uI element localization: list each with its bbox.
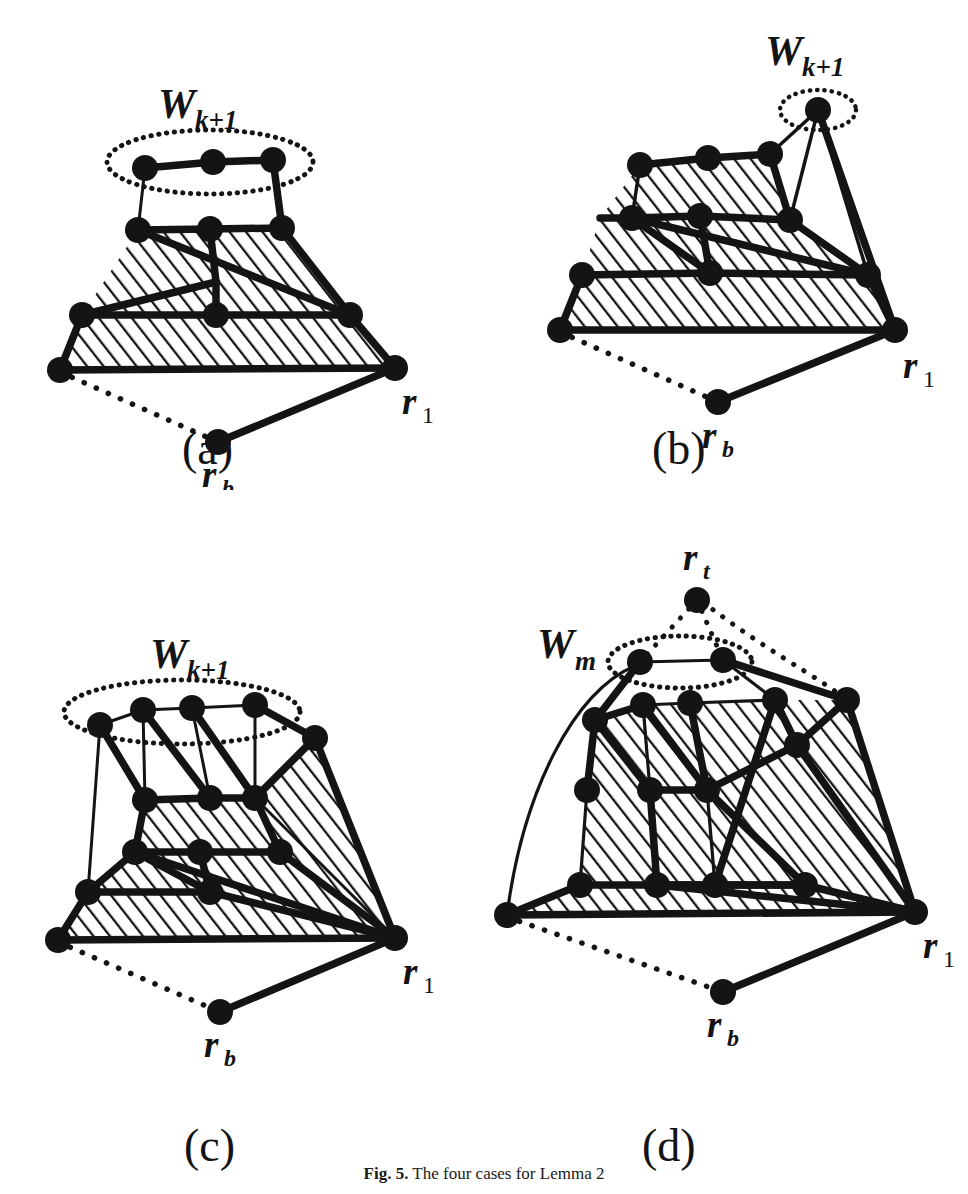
label-group-a: W k+1 — [158, 81, 237, 135]
dotted-edges-b — [560, 332, 718, 402]
svg-text:r: r — [707, 1004, 722, 1045]
svg-text:1: 1 — [923, 366, 935, 392]
svg-text:r: r — [204, 1024, 219, 1065]
label-group-d: W m — [537, 621, 596, 676]
svg-text:r: r — [683, 540, 698, 578]
set-label-b-base: W — [765, 30, 805, 74]
svg-text:t: t — [703, 558, 711, 584]
set-label-b-sub: k+1 — [802, 52, 844, 82]
r1-label-c: r 1 — [403, 951, 435, 998]
dotted-edges-d — [507, 917, 723, 992]
panel-d: W m r t r 1 r b — [475, 540, 965, 1100]
figure-root: W k+1 r 1 r b (a) — [0, 0, 968, 1194]
caption-body: The four cases for Lemma 2 — [412, 1164, 604, 1183]
set-label-d-sub: m — [575, 646, 596, 676]
svg-text:b: b — [224, 1045, 236, 1071]
dotted-edges-c — [58, 942, 220, 1012]
svg-text:1: 1 — [422, 402, 434, 428]
set-label-c-sub: k+1 — [187, 655, 229, 685]
set-label-d-base: W — [537, 621, 577, 667]
label-group-c: W k+1 — [150, 631, 229, 685]
svg-text:r: r — [402, 381, 417, 422]
rb-label-c: r b — [204, 1024, 236, 1071]
r1-label-b: r 1 — [903, 345, 935, 392]
rb-label-d: r b — [707, 1004, 739, 1051]
set-label-c-base: W — [150, 631, 190, 677]
rt-label-d: r t — [683, 540, 711, 584]
set-label-a-base: W — [158, 81, 198, 127]
svg-text:1: 1 — [423, 972, 435, 998]
panel-label-a-wrap: (a) — [170, 418, 310, 478]
svg-text:r: r — [923, 925, 938, 966]
hatched-region-a — [60, 228, 395, 370]
label-group-b: W k+1 — [765, 30, 844, 82]
svg-text:b: b — [727, 1025, 739, 1051]
panel-label-a: (a) — [182, 423, 233, 474]
svg-text:r: r — [403, 951, 418, 992]
figure-caption: Fig. 5. The four cases for Lemma 2 — [0, 1163, 968, 1194]
panel-label-b-wrap: (b) — [640, 418, 780, 478]
r1-label-a: r 1 — [402, 381, 434, 428]
r1-label-d: r 1 — [923, 925, 955, 972]
panel-c: W k+1 r 1 r b — [10, 620, 470, 1090]
svg-text:1: 1 — [943, 946, 955, 972]
svg-text:r: r — [903, 345, 918, 386]
dotted-edges-rt-d — [640, 600, 847, 700]
set-label-a-sub: k+1 — [195, 105, 237, 135]
caption-label: Fig. 5. — [364, 1164, 409, 1183]
panel-label-b: (b) — [652, 423, 706, 474]
hatched-region-c — [58, 738, 395, 940]
